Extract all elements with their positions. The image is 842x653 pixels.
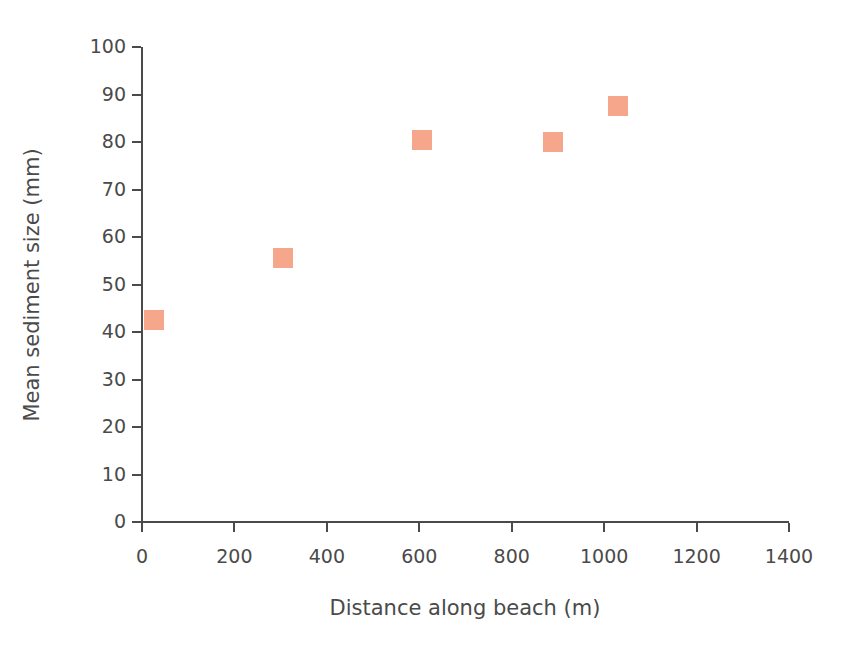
y-tick-label: 90: [82, 85, 126, 104]
y-tick-label-wrapper: 80: [40, 132, 126, 151]
x-tick-label: 1400: [744, 545, 834, 567]
scatter-chart: 0102030405060708090100 02004006008001000…: [0, 0, 842, 653]
y-tick-label: 30: [82, 370, 126, 389]
y-tick-label-wrapper: 10: [40, 465, 126, 484]
y-tick-mark: [132, 426, 141, 428]
x-axis-title: Distance along beach (m): [141, 596, 789, 620]
y-tick-label-wrapper: 60: [40, 227, 126, 246]
y-tick-label: 10: [82, 465, 126, 484]
x-tick-mark: [788, 523, 790, 532]
x-tick-mark: [141, 523, 143, 532]
y-tick-mark: [132, 94, 141, 96]
y-tick-label-wrapper: 100: [40, 37, 126, 56]
y-tick-mark: [132, 474, 141, 476]
x-tick-mark: [696, 523, 698, 532]
y-axis-title-wrapper: Mean sediment size (mm): [17, 47, 47, 523]
y-tick-label-wrapper: 90: [40, 85, 126, 104]
y-tick-label-wrapper: 30: [40, 370, 126, 389]
x-tick-label: 600: [374, 545, 464, 567]
y-tick-label: 50: [82, 275, 126, 294]
y-tick-mark: [132, 379, 141, 381]
y-tick-mark: [132, 46, 141, 48]
y-tick-mark: [132, 521, 141, 523]
y-tick-label-wrapper: 0: [40, 512, 126, 531]
y-tick-label-wrapper: 20: [40, 417, 126, 436]
x-tick-label: 200: [189, 545, 279, 567]
y-tick-label-wrapper: 50: [40, 275, 126, 294]
y-tick-label: 60: [82, 227, 126, 246]
y-tick-label: 40: [82, 322, 126, 341]
x-tick-mark: [326, 523, 328, 532]
y-tick-mark: [132, 236, 141, 238]
y-tick-label: 0: [82, 512, 126, 531]
x-tick-label: 400: [282, 545, 372, 567]
y-tick-mark: [132, 141, 141, 143]
data-point-marker: [543, 132, 563, 152]
y-tick-mark: [132, 189, 141, 191]
x-tick-mark: [233, 523, 235, 532]
y-tick-label: 80: [82, 132, 126, 151]
x-tick-label: 0: [97, 545, 187, 567]
data-point-marker: [412, 130, 432, 150]
y-tick-mark: [132, 331, 141, 333]
x-tick-mark: [511, 523, 513, 532]
x-axis-line: [141, 521, 789, 523]
y-axis-line: [141, 47, 143, 523]
y-tick-label: 20: [82, 417, 126, 436]
y-tick-label: 100: [82, 37, 126, 56]
x-tick-mark: [603, 523, 605, 532]
data-point-marker: [273, 248, 293, 268]
x-tick-label: 800: [467, 545, 557, 567]
x-tick-label: 1000: [559, 545, 649, 567]
y-tick-label-wrapper: 40: [40, 322, 126, 341]
y-axis-title: Mean sediment size (mm): [20, 148, 44, 421]
y-tick-mark: [132, 284, 141, 286]
x-tick-mark: [418, 523, 420, 532]
data-point-marker: [608, 96, 628, 116]
x-tick-label: 1200: [652, 545, 742, 567]
y-tick-label: 70: [82, 180, 126, 199]
data-point-marker: [144, 310, 164, 330]
y-tick-label-wrapper: 70: [40, 180, 126, 199]
